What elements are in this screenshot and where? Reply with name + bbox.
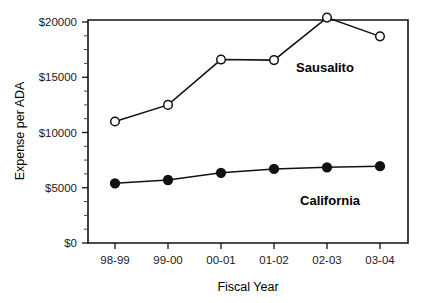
y-tick-label-5000: $5000 [45,182,77,194]
x-tick-label-99-00: 99-00 [153,254,182,266]
data-point[interactable] [323,163,332,172]
y-tick-label-20000: $20000 [39,16,77,28]
data-point[interactable] [164,176,173,185]
series-annotation-sausalito: Sausalito [296,60,354,75]
x-tick-label-03-04: 03-04 [365,254,395,266]
chart-container: $20000 $15000 $10000 $5000 $0 Expense pe… [0,0,423,303]
data-point[interactable] [270,56,279,65]
data-point[interactable] [376,162,385,171]
data-point[interactable] [217,55,226,64]
series-california [111,162,385,188]
data-point[interactable] [111,117,120,126]
y-tick-label-15000: $15000 [39,71,77,83]
y-tick-label-0: $0 [64,237,77,249]
y-tick-label-10000: $10000 [39,127,77,139]
data-series-layer [111,13,385,187]
x-tick-label-01-02: 01-02 [259,254,288,266]
data-point[interactable] [217,168,226,177]
y-axis-major-ticks [82,22,88,243]
x-tick-label-00-01: 00-01 [206,254,235,266]
data-point[interactable] [270,165,279,174]
line-chart: $20000 $15000 $10000 $5000 $0 Expense pe… [0,0,423,303]
data-point[interactable] [164,101,173,110]
plot-frame [88,20,408,243]
y-axis-title: Expense per ADA [13,81,27,180]
series-annotation-california: California [300,193,361,208]
x-axis-title: Fiscal Year [217,280,278,294]
x-axis-ticks [115,243,380,249]
x-tick-label-02-03: 02-03 [312,254,341,266]
data-point[interactable] [376,32,385,41]
x-tick-label-98-99: 98-99 [100,254,129,266]
data-point[interactable] [323,13,332,22]
data-point[interactable] [111,179,120,188]
series-line-california [115,166,380,183]
